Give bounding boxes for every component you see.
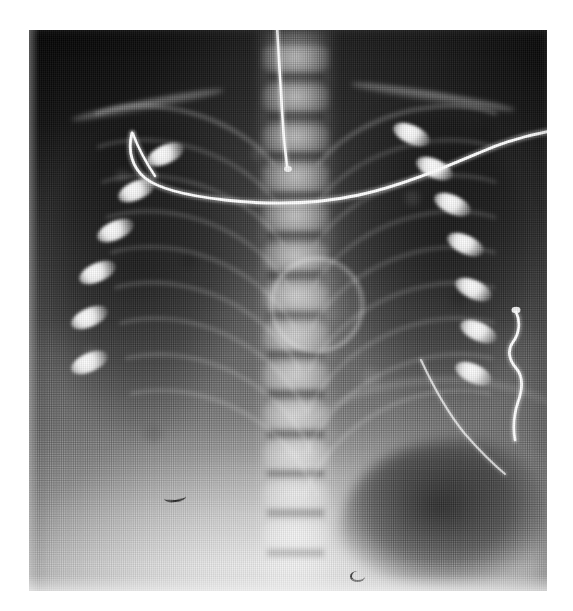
ecg-lead-wire-upper-icon [130,131,547,203]
support-devices [29,30,547,591]
device-overlay [29,30,547,591]
chest-radiograph-plate [29,30,547,591]
endotracheal-tube-icon [277,30,292,172]
ecg-lead-wire-right-icon [509,307,521,440]
figure-page [0,0,573,611]
catheter-right-lower-icon [421,360,505,474]
